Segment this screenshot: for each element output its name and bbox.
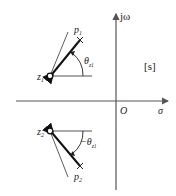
plane-label: [s] (144, 60, 156, 72)
z1-thin-line (50, 32, 68, 76)
imag-axis-label: jω (119, 10, 130, 22)
upper-pair: z1 p1 θz1 (36, 24, 94, 83)
z2-label: z2 (36, 126, 44, 138)
zero-z2-icon (47, 128, 53, 134)
neg-theta-z1-label: −θz1 (80, 136, 97, 149)
z2-thin-line (50, 131, 68, 177)
p1-label: p1 (73, 24, 82, 36)
zero-z1-icon (47, 73, 53, 79)
lower-pair: z2 p2 −θz1 (36, 126, 97, 183)
p2-label: p2 (73, 171, 82, 183)
z1-label: z1 (36, 71, 44, 83)
pole-p1-icon (77, 37, 83, 43)
origin-label: O (120, 105, 127, 116)
theta-z1-label: θz1 (84, 55, 94, 68)
s-plane-diagram: jω O σ [s] z1 p1 θz1 z2 p2 −θz1 (0, 0, 176, 196)
pole-p2-icon (77, 163, 83, 169)
theta-z1-arc (72, 53, 83, 76)
real-axis-label: σ (158, 105, 164, 116)
